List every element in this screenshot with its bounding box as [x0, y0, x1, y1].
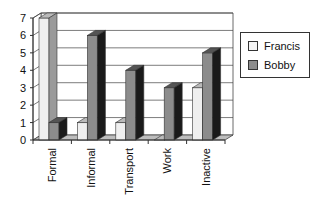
legend: Francis Bobby: [240, 32, 310, 78]
bar-bobby-informal: [87, 35, 97, 140]
bar-chart: 01234567 FormalInformalTransportWorkInac…: [0, 0, 318, 202]
legend-item-bobby: Bobby: [248, 59, 295, 71]
bar-bobby-transport: [126, 70, 136, 140]
x-tick-label: Inactive: [200, 148, 212, 186]
bar-francis-inactive: [193, 88, 203, 140]
y-tick-label: 6: [20, 29, 26, 41]
bar-bobby-work: [164, 88, 174, 140]
y-tick-label: 2: [20, 99, 26, 111]
bar-francis-formal: [39, 18, 49, 140]
bar-bobby-inactive: [203, 53, 213, 140]
y-axis: 01234567: [20, 12, 33, 146]
y-tick-label: 5: [20, 47, 26, 59]
y-tick-label: 3: [20, 82, 26, 94]
bar-side: [213, 48, 221, 140]
legend-label-bobby: Bobby: [264, 59, 295, 71]
legend-label-francis: Francis: [264, 40, 300, 52]
x-tick-label: Informal: [85, 148, 97, 188]
x-tick-label: Formal: [46, 148, 58, 182]
y-tick-label: 0: [20, 134, 26, 146]
bar-side: [136, 65, 144, 140]
x-tick-label: Transport: [123, 148, 135, 195]
y-tick-label: 1: [20, 117, 26, 129]
x-tick-label: Work: [161, 148, 173, 174]
x-axis: FormalInformalTransportWorkInactive: [33, 140, 225, 195]
bar-side: [97, 30, 105, 140]
legend-swatch-bobby: [248, 60, 258, 70]
y-tick-label: 7: [20, 12, 26, 24]
bar-francis-informal: [77, 123, 87, 140]
bar-side: [174, 83, 182, 140]
y-tick-label: 4: [20, 64, 26, 76]
legend-item-francis: Francis: [248, 40, 300, 52]
bar-bobby-formal: [49, 123, 59, 140]
bar-francis-transport: [116, 123, 126, 140]
legend-swatch-francis: [248, 41, 258, 51]
